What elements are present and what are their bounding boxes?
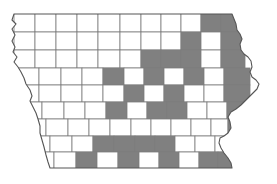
county-cell — [135, 136, 155, 152]
county-cell — [221, 12, 245, 32]
county-cell — [224, 68, 250, 85]
county-cell — [204, 85, 224, 102]
county-cell — [144, 85, 164, 102]
county-cell — [30, 152, 54, 172]
county-cell — [50, 136, 72, 152]
county-cell — [124, 85, 144, 102]
county-cell — [98, 32, 120, 50]
county-cell — [18, 102, 42, 119]
county-cell — [46, 119, 68, 136]
county-cell — [39, 85, 61, 102]
county-cell — [211, 119, 228, 136]
county-cell — [184, 85, 204, 102]
county-cell — [61, 85, 82, 102]
county-cell — [77, 32, 98, 50]
county-cell — [181, 12, 201, 32]
county-cell — [151, 119, 171, 136]
county-cell — [14, 68, 39, 85]
county-cell — [118, 152, 139, 172]
county-cell — [61, 68, 82, 85]
county-cell — [161, 12, 181, 32]
county-cell — [144, 68, 164, 85]
county-cell — [35, 50, 56, 68]
county-cell — [110, 119, 131, 136]
county-cell — [93, 136, 114, 152]
county-cell — [54, 152, 76, 172]
county-cell — [35, 32, 56, 50]
county-cell — [181, 50, 201, 68]
county-cell — [227, 102, 251, 119]
county-cell — [76, 152, 97, 172]
county-cell — [72, 136, 93, 152]
county-cell — [89, 119, 110, 136]
county-cell — [120, 50, 141, 68]
county-cell — [147, 102, 167, 119]
county-cell — [56, 12, 77, 32]
county-cell — [120, 32, 141, 50]
county-cell — [64, 102, 85, 119]
county-cell — [98, 50, 120, 68]
county-cell — [22, 119, 46, 136]
county-cell — [234, 152, 252, 172]
county-cell — [39, 68, 61, 85]
county-cell — [179, 152, 199, 172]
county-cell — [85, 102, 106, 119]
county-cell — [229, 136, 250, 152]
county-cell — [141, 12, 161, 32]
county-cell — [120, 12, 141, 32]
county-cell — [207, 102, 227, 119]
county-cell — [201, 32, 221, 50]
county-cell — [167, 102, 187, 119]
county-cell — [103, 68, 124, 85]
county-cell — [199, 152, 218, 172]
county-cell — [114, 136, 135, 152]
county-cell — [201, 50, 221, 68]
county-cell — [97, 152, 118, 172]
county-cell — [124, 68, 144, 85]
county-cell — [201, 12, 221, 32]
county-cell — [139, 152, 159, 172]
county-grid — [14, 12, 252, 172]
county-cell — [77, 12, 98, 32]
county-cell — [161, 32, 181, 50]
county-cell — [56, 32, 77, 50]
county-cell — [141, 50, 161, 68]
county-cell — [131, 119, 151, 136]
county-cell — [221, 50, 245, 68]
county-cell — [82, 68, 103, 85]
county-cell — [77, 50, 98, 68]
county-cell — [161, 50, 181, 68]
county-cell — [155, 136, 175, 152]
county-cell — [26, 136, 50, 152]
county-cell — [35, 12, 56, 32]
county-cell — [159, 152, 179, 172]
county-cell — [56, 50, 77, 68]
county-cell — [141, 32, 161, 50]
county-cell — [14, 12, 35, 32]
county-cell — [82, 85, 103, 102]
county-cell — [184, 68, 204, 85]
county-cell — [14, 85, 39, 102]
county-cell — [164, 85, 184, 102]
county-cell — [98, 12, 120, 32]
county-cell — [181, 32, 201, 50]
county-cell — [191, 119, 211, 136]
county-cell — [195, 136, 215, 152]
county-cell — [175, 136, 195, 152]
county-cell — [187, 102, 207, 119]
county-cell — [42, 102, 64, 119]
county-cell — [14, 32, 35, 50]
county-cell — [106, 102, 127, 119]
iowa-county-map — [0, 0, 277, 184]
map-svg — [0, 0, 277, 184]
county-cell — [164, 68, 184, 85]
county-cell — [204, 68, 224, 85]
county-cell — [103, 85, 124, 102]
county-cell — [127, 102, 147, 119]
county-cell — [68, 119, 89, 136]
county-cell — [171, 119, 191, 136]
